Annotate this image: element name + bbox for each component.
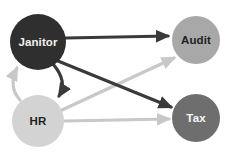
diagram-canvas: Janitor Audit HR Tax [0, 0, 232, 157]
node-janitor-label: Janitor [18, 36, 57, 48]
node-audit-label: Audit [181, 34, 211, 46]
edge-janitor-hr[interactable] [53, 64, 63, 96]
node-layer: Janitor Audit HR Tax [10, 14, 220, 147]
edge-janitor-audit[interactable] [66, 36, 168, 38]
edge-hr-tax[interactable] [64, 119, 169, 121]
node-audit[interactable]: Audit [172, 16, 220, 64]
node-hr[interactable]: HR [12, 95, 64, 147]
node-hr-label: HR [30, 115, 47, 127]
node-tax[interactable]: Tax [172, 94, 220, 142]
node-janitor[interactable]: Janitor [10, 14, 66, 70]
graph-svg: Janitor Audit HR Tax [0, 0, 232, 157]
edge-hr-janitor[interactable] [13, 68, 20, 100]
node-tax-label: Tax [186, 112, 206, 124]
